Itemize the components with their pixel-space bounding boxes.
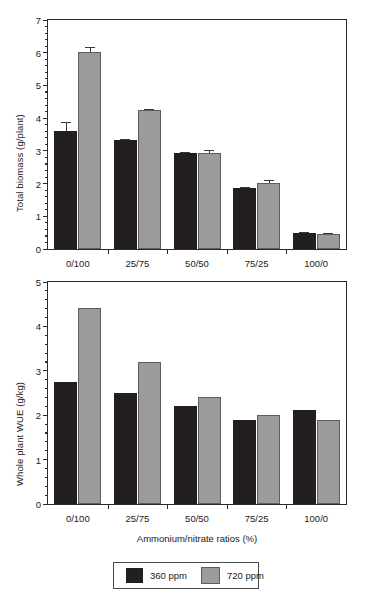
y-tick-minor	[45, 344, 48, 345]
y-tick-label: 3	[36, 365, 41, 376]
x-tick	[227, 249, 228, 254]
x-tick	[227, 504, 228, 509]
y-tick-major	[43, 52, 48, 53]
x-tick-label: 0/100	[66, 258, 90, 269]
error-bar-cap	[264, 180, 274, 181]
error-bar-cap	[240, 187, 250, 188]
y-tick-major	[43, 216, 48, 217]
error-bar-cap	[85, 47, 95, 48]
bar	[54, 382, 77, 504]
error-bar-cap	[180, 152, 190, 153]
y-axis-title-bottom: Whole plant WUE (g/kg)	[14, 382, 25, 486]
error-bar-cap	[204, 150, 214, 151]
y-tick-minor	[45, 308, 48, 309]
y-tick-major	[43, 459, 48, 460]
y-tick-minor	[45, 111, 48, 112]
y-tick-minor	[45, 177, 48, 178]
y-tick-major	[43, 326, 48, 327]
bar	[257, 415, 280, 504]
bar	[114, 140, 137, 249]
legend: 360 ppm 720 ppm	[113, 562, 259, 589]
x-tick	[108, 249, 109, 254]
y-tick-label: 2	[36, 410, 41, 421]
y-tick-label: 6	[36, 47, 41, 58]
y-tick-minor	[45, 229, 48, 230]
y-tick-minor	[45, 59, 48, 60]
y-tick-minor	[45, 105, 48, 106]
y-tick-label: 5	[36, 80, 41, 91]
bar	[138, 110, 161, 249]
y-tick-minor	[45, 91, 48, 92]
y-tick-label: 0	[36, 244, 41, 255]
y-tick-minor	[45, 131, 48, 132]
x-tick	[286, 249, 287, 254]
y-tick-minor	[45, 235, 48, 236]
y-tick-minor	[45, 468, 48, 469]
y-tick-minor	[45, 170, 48, 171]
bar	[198, 397, 221, 504]
y-tick-minor	[45, 299, 48, 300]
x-tick	[167, 504, 168, 509]
bar	[174, 406, 197, 504]
y-tick-label: 4	[36, 113, 41, 124]
y-tick-label: 2	[36, 178, 41, 189]
legend-swatch-360ppm	[126, 568, 143, 583]
y-tick-minor	[45, 190, 48, 191]
y-tick-label: 4	[36, 321, 41, 332]
x-tick-label: 100/0	[304, 258, 328, 269]
y-tick-label: 1	[36, 211, 41, 222]
legend-label-720ppm: 720 ppm	[227, 570, 264, 581]
error-bar-cap	[323, 233, 333, 234]
error-bar-cap	[299, 232, 309, 233]
y-tick-major	[43, 504, 48, 505]
y-tick-major	[43, 20, 48, 21]
bar	[233, 420, 256, 504]
legend-item-720ppm: 720 ppm	[201, 567, 264, 584]
panel-whole-plant-wue: Whole plant WUE (g/kg) 0123450/10025/755…	[0, 274, 365, 559]
x-axis-title-bottom: Ammonium/nitrate ratios (%)	[47, 533, 347, 544]
bar	[174, 153, 197, 249]
legend-item-360ppm: 360 ppm	[126, 568, 187, 583]
bar	[257, 183, 280, 249]
error-bar-cap	[61, 122, 71, 123]
legend-swatch-720ppm	[201, 567, 220, 584]
y-tick-label: 7	[36, 15, 41, 26]
y-tick-minor	[45, 361, 48, 362]
y-tick-major	[43, 282, 48, 283]
bar	[293, 233, 316, 249]
y-tick-label: 1	[36, 454, 41, 465]
y-tick-major	[43, 370, 48, 371]
x-tick	[108, 504, 109, 509]
y-tick-minor	[45, 39, 48, 40]
x-tick	[286, 504, 287, 509]
bar	[233, 188, 256, 249]
y-tick-minor	[45, 98, 48, 99]
y-tick-minor	[45, 203, 48, 204]
x-tick	[167, 249, 168, 254]
y-tick-minor	[45, 495, 48, 496]
x-tick-label: 100/0	[304, 513, 328, 524]
error-bar	[66, 122, 67, 131]
figure: Total biomass (g/plant) 012345670/10025/…	[0, 0, 365, 598]
y-tick-major	[43, 249, 48, 250]
y-tick-minor	[45, 33, 48, 34]
error-bar-cap	[144, 109, 154, 110]
y-tick-major	[43, 85, 48, 86]
y-tick-minor	[45, 397, 48, 398]
y-tick-minor	[45, 137, 48, 138]
bar	[293, 410, 316, 504]
x-tick-label: 50/50	[185, 513, 209, 524]
bar	[138, 362, 161, 504]
y-tick-minor	[45, 353, 48, 354]
y-tick-minor	[45, 209, 48, 210]
y-tick-minor	[45, 46, 48, 47]
y-tick-minor	[45, 78, 48, 79]
bar	[78, 52, 101, 249]
y-tick-minor	[45, 144, 48, 145]
legend-label-360ppm: 360 ppm	[150, 570, 187, 581]
y-tick-major	[43, 118, 48, 119]
y-tick-label: 3	[36, 145, 41, 156]
y-tick-minor	[45, 242, 48, 243]
y-tick-minor	[45, 290, 48, 291]
y-tick-minor	[45, 486, 48, 487]
